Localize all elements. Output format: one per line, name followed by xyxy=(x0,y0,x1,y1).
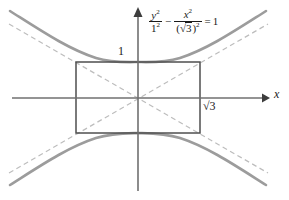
x-axis-arrowhead xyxy=(262,94,270,103)
x-axis-label: x xyxy=(274,88,279,100)
x-vertex-label: √3 xyxy=(203,100,216,112)
equation-x-denominator: (√3)2 xyxy=(174,22,201,34)
equation-y-numerator: y2 xyxy=(149,10,161,21)
equation-y-numerator-exponent: 2 xyxy=(156,8,160,16)
y-axis-arrowhead xyxy=(134,7,143,17)
equation-x-numerator-exponent: 2 xyxy=(189,7,193,15)
equation-x-fraction: x2 (√3)2 xyxy=(174,9,201,34)
hyperbola-figure xyxy=(0,0,289,200)
equation-x-denominator-open-paren: ( xyxy=(176,22,180,34)
equation-x-denominator-exponent: 2 xyxy=(196,21,200,29)
equation-x-numerator: x2 xyxy=(182,9,194,20)
hyperbola-equation-label: y2 12 − x2 (√3)2 = 1 xyxy=(148,9,218,34)
y-intercept-label: 1 xyxy=(118,45,124,57)
equation-right-hand-side: 1 xyxy=(213,16,219,27)
equation-y-denominator-exponent: 2 xyxy=(157,21,161,29)
equation-y-fraction: y2 12 xyxy=(149,10,162,34)
equation-equals-sign: = xyxy=(205,16,211,27)
equation-y-denominator: 12 xyxy=(149,23,162,34)
equation-minus-operator: − xyxy=(165,16,171,27)
